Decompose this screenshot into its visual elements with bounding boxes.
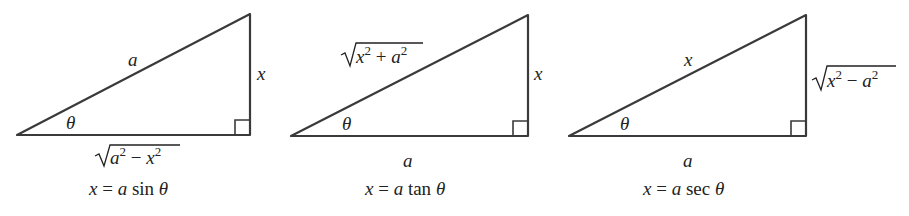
right-angle-marker	[791, 121, 806, 136]
opposite-label-radical: x2 − a2	[812, 66, 896, 91]
triangle-tan-outline	[291, 15, 528, 136]
caption-tan: x = a tan θ	[364, 178, 445, 199]
triangle-sec-outline	[569, 15, 806, 136]
opposite-label: x	[256, 63, 266, 84]
trig-substitution-figure: a x θ a2 − x2 x = a sin θ x2 + a2 x θ a	[0, 0, 909, 216]
hypotenuse-label: x	[683, 49, 693, 70]
opposite-label: x2 − a2	[826, 67, 878, 91]
opposite-label: x	[533, 63, 543, 84]
adjacent-label-radical: a2 − x2	[95, 144, 180, 168]
adjacent-label: a	[683, 150, 693, 171]
angle-label: θ	[342, 113, 351, 134]
triangle-sec: x θ x2 − a2 a x = a sec θ	[569, 15, 896, 199]
right-angle-marker	[235, 120, 250, 135]
hypotenuse-label: a	[128, 49, 138, 70]
triangle-tan: x2 + a2 x θ a x = a tan θ	[291, 15, 543, 199]
adjacent-label: a	[403, 150, 413, 171]
triangle-sin-outline	[17, 14, 250, 135]
caption-sec: x = a sec θ	[642, 178, 724, 199]
hypotenuse-label: x2 + a2	[355, 43, 407, 67]
right-angle-marker	[513, 121, 528, 136]
angle-label: θ	[620, 113, 629, 134]
hypotenuse-label-radical: x2 + a2	[341, 43, 423, 67]
adjacent-label: a2 − x2	[110, 144, 161, 168]
triangle-sin: a x θ a2 − x2 x = a sin θ	[17, 14, 266, 199]
angle-label: θ	[66, 112, 75, 133]
caption-sin: x = a sin θ	[88, 178, 168, 199]
